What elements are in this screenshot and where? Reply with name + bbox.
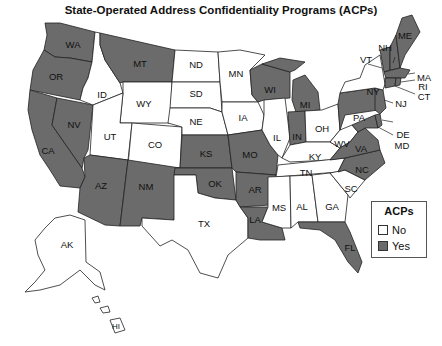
label-MO: MO bbox=[242, 149, 257, 160]
label-CO: CO bbox=[148, 139, 162, 150]
lead-MD bbox=[378, 127, 393, 135]
label-KY: KY bbox=[309, 151, 322, 162]
state-CT bbox=[385, 78, 396, 88]
label-UT: UT bbox=[104, 131, 117, 142]
legend-label-yes: Yes bbox=[392, 240, 410, 252]
label-MD: MD bbox=[395, 140, 410, 151]
label-AK: AK bbox=[61, 239, 74, 250]
label-LA: LA bbox=[249, 214, 261, 225]
state-HI bbox=[92, 296, 125, 333]
label-NH: NH bbox=[378, 42, 392, 53]
state-RI bbox=[395, 78, 401, 86]
label-SD: SD bbox=[189, 88, 202, 99]
legend: ACPs No Yes bbox=[371, 201, 427, 258]
label-TN: TN bbox=[300, 167, 313, 178]
state-AK bbox=[25, 215, 105, 292]
label-IN: IN bbox=[292, 131, 302, 142]
legend-item-yes: Yes bbox=[378, 240, 410, 252]
label-IA: IA bbox=[239, 112, 249, 123]
label-NJ: NJ bbox=[395, 98, 407, 109]
label-WY: WY bbox=[136, 98, 152, 109]
label-MT: MT bbox=[133, 58, 147, 69]
lead-CT bbox=[395, 86, 415, 94]
label-NC: NC bbox=[355, 164, 369, 175]
label-OH: OH bbox=[315, 123, 329, 134]
legend-swatch-no bbox=[378, 225, 388, 235]
lead-MA bbox=[408, 73, 415, 74]
label-PA: PA bbox=[353, 112, 366, 123]
label-CT: CT bbox=[418, 91, 431, 102]
label-AZ: AZ bbox=[95, 180, 107, 191]
label-ND: ND bbox=[189, 59, 203, 70]
label-NM: NM bbox=[139, 181, 154, 192]
label-NV: NV bbox=[67, 119, 81, 130]
label-CA: CA bbox=[41, 145, 55, 156]
label-ID: ID bbox=[97, 89, 107, 100]
label-HI: HI bbox=[112, 322, 120, 331]
label-VT: VT bbox=[360, 54, 372, 65]
label-TX: TX bbox=[198, 218, 211, 229]
label-WV: WV bbox=[334, 138, 350, 149]
label-MA: MA bbox=[417, 72, 432, 83]
label-MS: MS bbox=[272, 202, 286, 213]
label-KS: KS bbox=[200, 148, 213, 159]
label-AL: AL bbox=[296, 201, 308, 212]
label-GA: GA bbox=[325, 201, 339, 212]
label-DE: DE bbox=[396, 129, 409, 140]
label-MI: MI bbox=[300, 99, 311, 110]
legend-swatch-yes bbox=[378, 241, 388, 251]
label-VA: VA bbox=[355, 143, 368, 154]
label-WI: WI bbox=[264, 84, 276, 95]
label-NY: NY bbox=[366, 86, 380, 97]
state-NM bbox=[120, 160, 180, 226]
state-ME bbox=[396, 15, 420, 68]
legend-label-no: No bbox=[392, 224, 406, 236]
lead-DE bbox=[382, 120, 393, 122]
label-MN: MN bbox=[229, 68, 244, 79]
legend-title: ACPs bbox=[372, 205, 426, 217]
label-FL: FL bbox=[344, 242, 355, 253]
label-SC: SC bbox=[344, 183, 357, 194]
label-OK: OK bbox=[208, 178, 222, 189]
label-NE: NE bbox=[189, 116, 202, 127]
lead-RI bbox=[401, 80, 415, 82]
label-ME: ME bbox=[398, 30, 412, 41]
label-OR: OR bbox=[49, 71, 63, 82]
legend-item-no: No bbox=[378, 224, 406, 236]
us-map: WA OR CA NV ID MT WY UT CO AZ NM ND SD N… bbox=[0, 0, 442, 346]
label-IL: IL bbox=[273, 132, 281, 143]
label-AR: AR bbox=[248, 184, 261, 195]
label-WA: WA bbox=[66, 39, 82, 50]
